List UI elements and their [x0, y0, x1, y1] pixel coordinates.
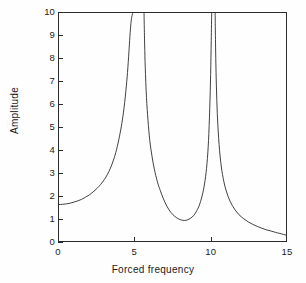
- y-tick-mark: [58, 242, 63, 243]
- y-tick-mark: [58, 104, 63, 105]
- y-axis-label: Amplitude: [9, 61, 20, 161]
- y-tick-label: 8: [50, 53, 55, 63]
- figure: 012345678910 051015 Forced frequency Amp…: [0, 0, 306, 283]
- y-tick-mark: [58, 35, 63, 36]
- y-tick-mark: [58, 81, 63, 82]
- y-tick-mark: [58, 219, 63, 220]
- y-tick-mark: [58, 150, 63, 151]
- y-tick-label: 10: [44, 7, 55, 17]
- y-tick-label: 9: [50, 30, 55, 40]
- y-tick-mark: [58, 196, 63, 197]
- curve-amplitude: [59, 13, 133, 205]
- x-tick-mark: [134, 237, 135, 242]
- y-tick-label: 5: [50, 122, 55, 132]
- x-axis-label: Forced frequency: [0, 264, 306, 275]
- y-tick-mark: [58, 173, 63, 174]
- y-tick-label: 1: [50, 214, 55, 224]
- curve-amplitude-branch-3: [215, 13, 286, 235]
- x-tick-label: 15: [282, 246, 293, 257]
- y-tick-mark: [58, 58, 63, 59]
- y-tick-label: 3: [50, 168, 55, 178]
- y-tick-mark: [58, 127, 63, 128]
- x-tick-mark: [211, 237, 212, 242]
- y-tick-label: 7: [50, 76, 55, 86]
- plot-area: [58, 12, 287, 242]
- x-tick-label: 5: [132, 246, 137, 257]
- y-tick-label: 6: [50, 99, 55, 109]
- y-tick-label: 0: [50, 237, 55, 247]
- curve-amplitude-branch-2: [144, 13, 212, 220]
- y-tick-label: 4: [50, 145, 55, 155]
- y-tick-mark: [58, 12, 63, 13]
- x-tick-label: 0: [55, 246, 60, 257]
- x-tick-label: 10: [205, 246, 216, 257]
- y-tick-label: 2: [50, 191, 55, 201]
- amplitude-curve: [59, 13, 286, 241]
